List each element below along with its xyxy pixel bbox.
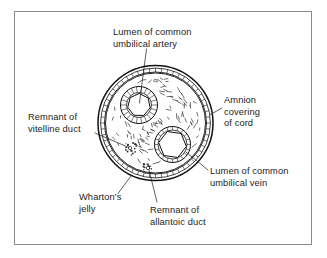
amnion-radial-tick	[113, 89, 116, 91]
amnion-radial-tick	[121, 163, 123, 166]
remnant-speck	[143, 166, 145, 168]
label-line: Remnant of	[28, 112, 77, 122]
label-line: Wharton's	[79, 192, 122, 202]
vessel-lumen	[128, 94, 150, 116]
amnion-radial-tick	[199, 94, 202, 96]
amnion-radial-tick	[187, 80, 189, 83]
amnion-radial-tick	[117, 84, 120, 87]
label-amnion-covering-of-cord: Amnioncoveringof cord	[224, 95, 260, 128]
amnion-radial-tick	[204, 140, 208, 141]
remnant-speck	[131, 154, 133, 156]
label-line: vitelline duct	[28, 124, 81, 134]
amnion-radial-tick	[205, 134, 209, 135]
amnion-radial-tick	[183, 166, 185, 169]
amnion-radial-tick	[199, 150, 202, 152]
label-remnant-of-vitelline-duct: Remnant ofvitelline duct	[28, 112, 81, 134]
amnion-radial-tick	[192, 159, 195, 162]
umbilical-vein	[155, 127, 191, 163]
remnant-speck	[148, 173, 149, 174]
label-line: Amnion	[224, 95, 256, 105]
amnion-radial-tick	[104, 140, 108, 141]
amnion-radial-tick	[195, 89, 198, 91]
amnion-radial-tick	[132, 169, 134, 173]
amnion-radial-tick	[121, 80, 123, 83]
amnion-radial-tick	[132, 74, 134, 78]
remnant-core	[146, 166, 149, 169]
amnion-radial-tick	[187, 163, 189, 166]
label-line: Lumen of common	[113, 27, 192, 37]
amnion-radial-tick	[109, 94, 112, 96]
amnion-radial-tick	[102, 134, 106, 135]
amnion-radial-tick	[126, 77, 128, 80]
amnion-radial-tick	[178, 74, 180, 78]
remnant-core	[128, 146, 131, 149]
amnion-radial-tick	[137, 71, 138, 75]
label-line: Lumen of common	[210, 166, 289, 176]
label-line: allantoic duct	[150, 217, 206, 227]
amnion-radial-tick	[126, 166, 128, 169]
label-line: umbilical vein	[210, 178, 267, 188]
jelly-hatch-dash	[114, 107, 115, 111]
remnant-speck	[150, 166, 151, 167]
amnion-radial-tick	[183, 77, 185, 80]
label-line: of cord	[224, 118, 253, 128]
umbilical-cord-cross-section-diagram: Lumen of commonumbilical arteryAmnioncov…	[0, 0, 327, 258]
remnant-speck	[132, 142, 134, 144]
amnion-radial-tick	[102, 111, 106, 112]
amnion-radial-tick	[201, 99, 205, 101]
remnant-speck	[134, 151, 136, 153]
label-remnant-of-allantoic-duct: Remnant ofallantoic duct	[150, 205, 206, 227]
amnion-radial-tick	[137, 171, 138, 175]
figure-root: Lumen of commonumbilical arteryAmnioncov…	[0, 0, 327, 258]
amnion-radial-tick	[113, 155, 116, 157]
label-whartons-jelly: Wharton'sjelly	[78, 192, 122, 214]
label-line: umbilical artery	[113, 39, 177, 49]
remnant-speck	[125, 149, 127, 151]
leader-line-whartons-jelly	[118, 176, 131, 194]
umbilical-artery-upper	[121, 87, 158, 124]
label-line: Remnant of	[150, 205, 199, 215]
whartons-jelly-layer	[106, 73, 206, 173]
amnion-radial-tick	[167, 173, 168, 177]
amnion-radial-tick	[109, 150, 112, 152]
amnion-radial-tick	[117, 159, 120, 162]
remnant-speck	[143, 169, 144, 170]
amnion-radial-tick	[195, 155, 198, 157]
remnant-speck	[134, 148, 135, 149]
amnion-radial-tick	[143, 173, 144, 177]
amnion-radial-tick	[104, 105, 108, 106]
amnion-radial-tick	[178, 169, 180, 173]
amnion-radial-tick	[172, 171, 173, 175]
remnant-speck	[132, 152, 134, 154]
label-lumen-common-umbilical-vein: Lumen of commonumbilical vein	[210, 166, 289, 188]
label-line: covering	[224, 107, 260, 117]
remnant-speck	[136, 144, 138, 146]
label-line: jelly	[78, 204, 96, 214]
remnant-speck	[145, 172, 146, 173]
amnion-radial-tick	[167, 69, 168, 73]
amnion-radial-tick	[106, 99, 110, 101]
amnion-radial-tick	[201, 145, 205, 147]
amnion-radial-tick	[106, 145, 110, 147]
label-lumen-common-umbilical-artery: Lumen of commonumbilical artery	[113, 27, 192, 49]
remnant-speck	[130, 150, 132, 152]
remnant-speck	[147, 163, 149, 165]
remnant-speck	[127, 144, 129, 146]
amnion-radial-tick	[192, 84, 195, 87]
amnion-radial-tick	[205, 111, 209, 112]
remnant-speck	[150, 168, 152, 170]
remnant-speck	[127, 150, 129, 152]
amnion-radial-tick	[172, 71, 173, 75]
remnant-speck	[143, 163, 145, 165]
remnant-speck	[125, 143, 126, 144]
amnion-radial-tick	[204, 105, 208, 106]
